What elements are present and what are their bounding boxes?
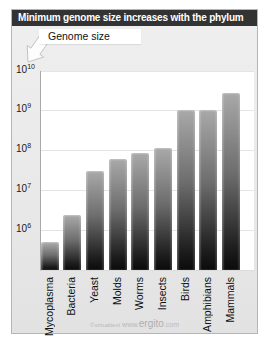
- genome-size-callout: Genome size: [39, 29, 141, 44]
- gridline-1e10: [41, 71, 255, 72]
- bar-amphibians: [199, 110, 217, 269]
- y-tick-1e6: 106: [16, 222, 39, 236]
- x-label-birds: Birds: [176, 277, 194, 339]
- bar-yeast: [86, 171, 104, 270]
- bar-mammals: [222, 93, 240, 270]
- bar-mycoplasma: [41, 242, 59, 270]
- y-tick-1e7: 107: [16, 182, 39, 196]
- y-tick-1e8: 108: [16, 142, 39, 156]
- x-label-molds: Molds: [108, 277, 126, 339]
- bar-bacteria: [63, 215, 81, 270]
- watermark-copyright: ©virtualtext: [90, 322, 120, 328]
- x-label-mycoplasma: Mycoplasma: [40, 277, 58, 339]
- x-label-bacteria: Bacteria: [62, 277, 80, 339]
- page: { "title": "Minimum genome size increase…: [0, 0, 269, 348]
- bar-worms: [131, 153, 149, 270]
- watermark-www: www.: [120, 321, 139, 328]
- watermark-domain: .com: [164, 321, 179, 328]
- watermark: ©virtualtext www.ergito.com: [12, 318, 257, 329]
- watermark-brand: ergito: [139, 318, 164, 329]
- x-label-mammals: Mammals: [221, 277, 239, 339]
- y-tick-1e9: 109: [16, 102, 39, 116]
- figure-panel: Minimum genome size increases with the p…: [11, 9, 258, 334]
- x-label-worms: Worms: [130, 277, 148, 339]
- bar-birds: [177, 110, 195, 269]
- genome-size-label: Genome size: [48, 30, 110, 42]
- x-label-amphibians: Amphibians: [198, 277, 216, 339]
- chart-plot-area: [40, 71, 255, 271]
- x-label-insects: Insects: [153, 277, 171, 339]
- x-label-yeast: Yeast: [85, 277, 103, 339]
- bar-molds: [109, 159, 127, 270]
- bar-insects: [154, 148, 172, 269]
